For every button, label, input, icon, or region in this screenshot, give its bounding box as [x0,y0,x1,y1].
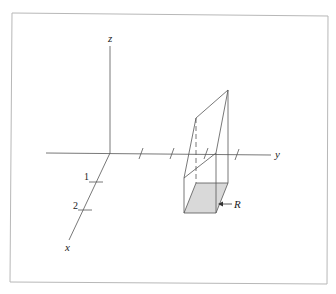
diagram-canvas: z y x 1 2 R [0,0,336,294]
region-r [184,183,228,213]
x-tick-2: 2 [73,200,78,211]
x-axis-ticks [78,182,103,210]
z-axis-label: z [107,32,113,44]
x-axis-label: x [64,241,70,253]
y-axis-label: y [274,148,280,160]
figure-frame [10,13,328,284]
x-tick-1: 1 [84,171,89,182]
region-label: R [233,198,241,210]
x-axis [69,153,110,240]
